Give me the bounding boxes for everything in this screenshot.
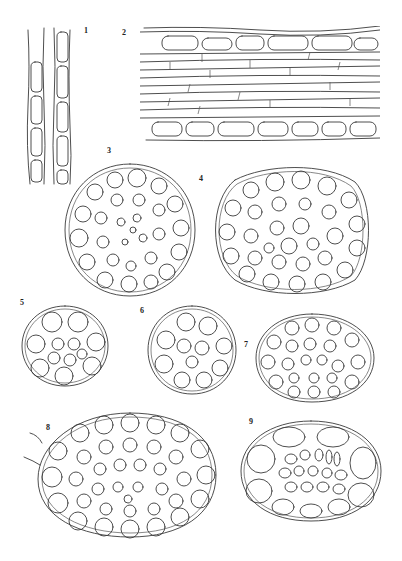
figure-9-label: 9 bbox=[249, 417, 253, 426]
figure-8-drawing bbox=[20, 405, 230, 545]
figure-6-label: 6 bbox=[140, 306, 144, 315]
figure-4: 4 bbox=[205, 160, 375, 300]
figure-9-drawing bbox=[235, 415, 385, 525]
figure-3-drawing bbox=[55, 150, 205, 300]
plate: 1 bbox=[0, 0, 402, 561]
figure-5-label: 5 bbox=[20, 298, 24, 307]
figure-7: 7 bbox=[248, 310, 378, 405]
figure-2-drawing bbox=[140, 26, 380, 148]
figure-8-label: 8 bbox=[46, 423, 50, 432]
figure-7-drawing bbox=[248, 310, 378, 405]
figure-9: 9 bbox=[235, 415, 385, 525]
figure-3: 3 bbox=[55, 150, 205, 300]
figure-5: 5 bbox=[20, 300, 110, 390]
figure-6: 6 bbox=[140, 300, 240, 400]
figure-3-label: 3 bbox=[107, 146, 111, 155]
figure-4-drawing bbox=[205, 160, 375, 300]
figure-2-label: 2 bbox=[122, 28, 126, 37]
figure-1-label: 1 bbox=[84, 26, 88, 35]
figure-8: 8 bbox=[20, 405, 230, 545]
figure-5-drawing bbox=[20, 300, 110, 390]
figure-4-label: 4 bbox=[199, 174, 203, 183]
figure-7-label: 7 bbox=[244, 340, 248, 349]
figure-6-drawing bbox=[140, 300, 240, 400]
figure-2: 2 bbox=[140, 26, 380, 148]
